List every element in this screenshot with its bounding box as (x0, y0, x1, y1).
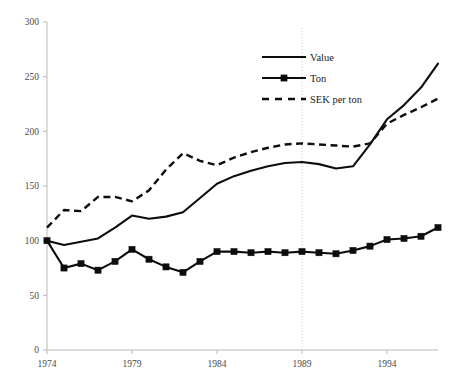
chart-plot-area: 050100150200250300 19741979198419891994 … (0, 0, 455, 390)
data-point-marker (418, 233, 424, 239)
legend-marker-ton (281, 75, 287, 81)
data-point-marker (44, 238, 50, 244)
legend-label-ton: Ton (310, 73, 327, 84)
legend-item-sek-per-ton[interactable]: SEK per ton (262, 94, 363, 105)
data-point-marker (333, 251, 339, 257)
y-tick-label: 200 (25, 127, 40, 137)
data-point-marker (299, 249, 305, 255)
legend-label-value: Value (310, 52, 334, 63)
x-tick-label: 1974 (38, 359, 57, 369)
chart-legend[interactable]: ValueTonSEK per ton (262, 52, 363, 105)
legend-item-ton[interactable]: Ton (262, 73, 327, 84)
data-point-marker (95, 267, 101, 273)
y-tick-label: 100 (25, 236, 40, 246)
x-tick-label: 1979 (123, 359, 142, 369)
legend-label-sek-per-ton: SEK per ton (310, 94, 363, 105)
axes (47, 22, 438, 350)
data-point-marker (282, 250, 288, 256)
series-line-sek-per-ton (47, 99, 438, 228)
line-chart: 050100150200250300 19741979198419891994 … (0, 0, 455, 390)
data-point-marker (231, 249, 237, 255)
tick-marks (43, 22, 387, 354)
x-tick-label: 1989 (293, 359, 312, 369)
data-point-marker (316, 250, 322, 256)
x-axis-tick-labels: 19741979198419891994 (38, 359, 397, 369)
y-tick-label: 300 (25, 17, 40, 27)
data-point-marker (248, 250, 254, 256)
y-tick-label: 50 (30, 291, 40, 301)
data-point-marker (214, 249, 220, 255)
x-tick-label: 1994 (378, 359, 397, 369)
data-point-marker (197, 258, 203, 264)
data-point-marker (112, 258, 118, 264)
data-point-marker (163, 264, 169, 270)
data-point-marker (146, 256, 152, 262)
y-tick-label: 250 (25, 72, 40, 82)
data-point-marker (265, 249, 271, 255)
data-point-marker (78, 261, 84, 267)
data-point-marker (61, 265, 67, 271)
data-point-marker (401, 235, 407, 241)
legend-item-value[interactable]: Value (262, 52, 334, 63)
data-series (44, 64, 441, 276)
data-point-marker (180, 269, 186, 275)
y-axis-tick-labels: 050100150200250300 (25, 17, 40, 355)
y-tick-label: 150 (25, 181, 40, 191)
data-point-marker (350, 247, 356, 253)
x-tick-label: 1984 (208, 359, 227, 369)
y-tick-label: 0 (34, 345, 39, 355)
data-point-marker (435, 224, 441, 230)
data-point-marker (367, 243, 373, 249)
data-point-marker (384, 236, 390, 242)
data-point-marker (129, 246, 135, 252)
